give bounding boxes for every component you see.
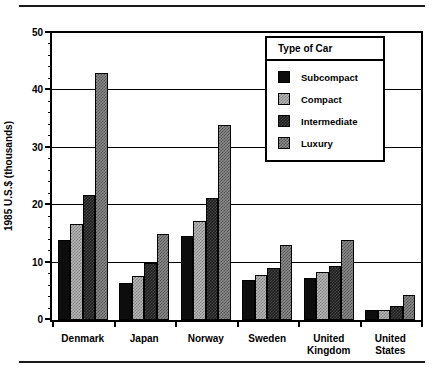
y-axis-tick-minor	[48, 250, 52, 251]
y-axis-tick-minor	[48, 285, 52, 286]
x-axis-group-label: Norway	[175, 333, 237, 345]
x-axis-tick	[237, 320, 239, 327]
y-axis-title: 1985 U.S.$ (thousands)	[3, 121, 14, 231]
y-axis-tick-minor	[48, 66, 52, 67]
legend-swatch-subcompact	[278, 71, 290, 83]
y-axis-tick-minor	[48, 227, 52, 228]
legend-item: Intermediate	[271, 110, 379, 132]
bar	[70, 224, 83, 320]
x-axis-group-label: Japan	[114, 333, 176, 345]
y-axis-tick-minor	[48, 296, 52, 297]
bar	[304, 278, 317, 320]
y-axis-tick-minor	[48, 112, 52, 113]
bar	[206, 198, 219, 320]
x-axis-group-label: United Kingdom	[298, 333, 360, 356]
legend-item-label: Subcompact	[301, 72, 358, 83]
bar	[378, 310, 391, 320]
top-divider-rule	[19, 5, 425, 7]
bar	[181, 236, 194, 320]
y-axis-tick-minor	[48, 170, 52, 171]
bar	[390, 306, 403, 320]
x-axis-tick	[52, 320, 54, 327]
bar	[58, 240, 71, 320]
legend-title: Type of Car	[267, 38, 383, 61]
bar	[242, 280, 255, 320]
y-axis-tick-label: 20	[32, 200, 43, 210]
bar	[144, 263, 157, 320]
x-axis-tick	[298, 320, 300, 327]
bottom-divider-rule	[19, 361, 425, 363]
legend-swatch-intermediate	[278, 115, 290, 127]
bar	[403, 295, 416, 320]
y-axis-tick-minor	[48, 181, 52, 182]
x-axis-group-label: United States	[360, 333, 422, 356]
y-axis-tick-label: 10	[32, 258, 43, 268]
x-axis-tick	[421, 320, 423, 327]
y-axis-tick-label: 0	[37, 315, 43, 325]
y-axis-tick-minor	[48, 101, 52, 102]
legend-box: Type of Car SubcompactCompactIntermediat…	[265, 36, 385, 162]
legend-swatch-compact	[278, 93, 290, 105]
legend-item: Compact	[271, 88, 379, 110]
x-axis-tick	[360, 320, 362, 327]
bar	[132, 276, 145, 320]
y-axis-tick-minor	[48, 55, 52, 56]
y-axis-tick-label: 50	[32, 28, 43, 38]
legend-item-label: Luxury	[301, 138, 333, 149]
y-axis-tick-major	[45, 146, 52, 148]
y-axis-tick-minor	[48, 158, 52, 159]
bar	[157, 234, 170, 320]
legend-item: Subcompact	[271, 66, 379, 88]
bar	[119, 283, 132, 320]
y-axis-tick-minor	[48, 193, 52, 194]
x-axis-tick	[114, 320, 116, 327]
bar	[280, 245, 293, 320]
y-axis-tick-major	[45, 203, 52, 205]
y-axis-tick-major	[45, 31, 52, 33]
legend-item-label: Compact	[301, 94, 342, 105]
x-axis-group-label: Sweden	[237, 333, 299, 345]
y-axis-tick-minor	[48, 135, 52, 136]
y-axis-tick-minor	[48, 78, 52, 79]
y-axis-tick-major	[45, 261, 52, 263]
bar	[218, 125, 231, 320]
y-axis-tick-minor	[48, 239, 52, 240]
legend-items-group: SubcompactCompactIntermediateLuxury	[267, 61, 383, 160]
bar	[193, 221, 206, 320]
bar	[316, 272, 329, 320]
bar	[329, 266, 342, 320]
x-axis-tick	[175, 320, 177, 327]
y-axis-tick-major	[45, 88, 52, 90]
y-axis-tick-minor	[48, 216, 52, 217]
y-axis-tick-minor	[48, 124, 52, 125]
y-axis-tick-label: 30	[32, 143, 43, 153]
legend-item: Luxury	[271, 132, 379, 154]
y-axis-tick-label: 40	[32, 85, 43, 95]
figure-container: 1985 U.S.$ (thousands) 01020304050 Denma…	[0, 0, 444, 379]
y-axis-tick-minor	[48, 273, 52, 274]
bar	[83, 195, 96, 320]
x-axis-group-label: Denmark	[52, 333, 114, 345]
legend-item-label: Intermediate	[301, 116, 358, 127]
y-axis-tick-minor	[48, 308, 52, 309]
legend-swatch-luxury	[278, 137, 290, 149]
bar	[365, 310, 378, 320]
bar	[267, 268, 280, 320]
bar	[95, 73, 108, 320]
bar	[255, 275, 268, 320]
y-axis-tick-major	[45, 318, 52, 320]
bar	[341, 240, 354, 320]
y-axis-tick-minor	[48, 43, 52, 44]
